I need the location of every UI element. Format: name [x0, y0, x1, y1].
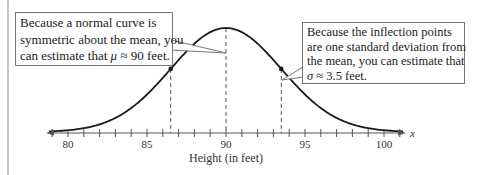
- mean-callout-text: can estimate that: [20, 48, 111, 63]
- mean-callout-line-1: Because a normal curve is: [20, 15, 168, 32]
- sd-callout-line-2: are one standard deviation from: [307, 40, 460, 55]
- tick-label-80: 80: [63, 138, 75, 150]
- mean-callout-line-2: symmetric about the mean, you: [20, 32, 168, 49]
- mean-callout-value: ≈ 90 feet.: [117, 48, 170, 63]
- axis-variable-label: x: [409, 127, 415, 139]
- tick-label-100: 100: [376, 138, 393, 150]
- right-inflection-point: [279, 67, 284, 72]
- sd-callout-line-3: the mean, you can estimate that: [307, 54, 460, 69]
- page-margin-bar: [7, 0, 9, 175]
- x-axis-title: Height (in feet): [189, 151, 263, 165]
- tick-label-85: 85: [142, 138, 154, 150]
- sd-callout-line-4: σ ≈ 3.5 feet.: [307, 69, 460, 84]
- tick-label-95: 95: [300, 138, 312, 150]
- sd-callout-value: ≈ 3.5 feet.: [313, 69, 367, 83]
- sd-callout-box: Because the inflection points are one st…: [302, 22, 465, 84]
- left-inflection-point: [168, 67, 173, 72]
- mean-callout-line-3: can estimate that μ ≈ 90 feet.: [20, 48, 168, 65]
- mean-callout-box: Because a normal curve is symmetric abou…: [15, 12, 173, 66]
- tick-label-90: 90: [221, 138, 233, 150]
- sd-callout-line-1: Because the inflection points: [307, 25, 460, 40]
- normal-curve-figure: 80 85 90 95 100 x Height (in feet) Becau…: [0, 0, 480, 175]
